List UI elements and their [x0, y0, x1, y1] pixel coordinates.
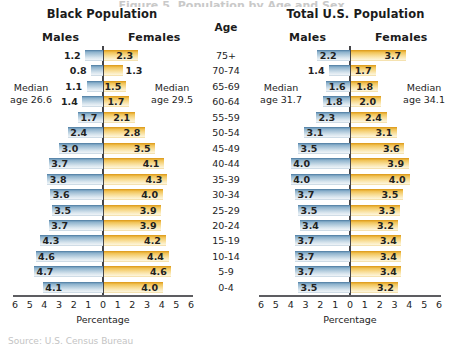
- bar-value-female: 2.3: [116, 49, 133, 62]
- bar-value-male: 3.5: [301, 142, 318, 155]
- age-group-label: 60-64: [204, 94, 248, 109]
- x-axis-tick-label: 4: [284, 299, 298, 311]
- pyramid-row: 2.32.4: [248, 110, 453, 125]
- page-bottom-bleed-text: Source: U.S. Census Bureau: [8, 336, 308, 344]
- bar-value-male: 4.0: [293, 157, 310, 170]
- bar-value-male: 4.1: [45, 281, 62, 294]
- bar-value-male: 3.7: [298, 265, 315, 278]
- bar-value-female: 3.4: [380, 250, 397, 263]
- bar-value-male: 1.1: [65, 80, 82, 93]
- bar-value-female: 3.5: [381, 188, 398, 201]
- bar-value-female: 3.2: [377, 281, 394, 294]
- bar-value-male: 1.4: [61, 95, 78, 108]
- x-axis-tick-label: 4: [402, 299, 416, 311]
- bar-value-female: 4.1: [143, 157, 160, 170]
- age-group-label: 35-39: [204, 172, 248, 187]
- x-axis-tick-label: 5: [23, 299, 37, 311]
- bar-value-male: 3.5: [301, 281, 318, 294]
- x-axis-tick-label: 5: [169, 299, 183, 311]
- bar-value-female: 1.7: [355, 64, 372, 77]
- bar-value-female: 1.5: [105, 80, 122, 93]
- x-axis-tick-label: 2: [373, 299, 387, 311]
- age-group-label: 45-49: [204, 141, 248, 156]
- bar-value-male: 1.6: [329, 80, 346, 93]
- bar-value-female: 2.4: [365, 111, 382, 124]
- bar-value-female: 3.1: [375, 126, 392, 139]
- x-axis-tick-label: 3: [299, 299, 313, 311]
- bar-value-female: 3.7: [384, 49, 401, 62]
- bar-value-male: 2.3: [318, 111, 335, 124]
- x-axis-tick-label: 2: [125, 299, 139, 311]
- age-group-label: 70-74: [204, 63, 248, 78]
- x-axis-line: [259, 295, 441, 297]
- bar-value-male: 3.7: [298, 234, 315, 247]
- bar-male: [82, 96, 103, 107]
- bar-value-female: 3.3: [378, 204, 395, 217]
- bar-value-male: 4.0: [293, 173, 310, 186]
- age-group-label: 5-9: [204, 264, 248, 279]
- pyramid-row: 3.73.5: [248, 187, 453, 202]
- chart-panel-black-population: Black Population Males Females Median ag…: [0, 0, 204, 344]
- pyramid-row: 1.72.1: [0, 110, 205, 125]
- pyramid-row: 3.73.4: [248, 233, 453, 248]
- age-group-label: 15-19: [204, 233, 248, 248]
- bar-value-male: 1.8: [326, 95, 343, 108]
- x-axis-tick-label: 2: [313, 299, 327, 311]
- pyramid-row: 3.53.6: [248, 141, 453, 156]
- bar-value-female: 1.7: [107, 95, 124, 108]
- bar-value-female: 4.0: [389, 173, 406, 186]
- bar-value-male: 2.2: [320, 49, 337, 62]
- x-axis-tick-label: 3: [388, 299, 402, 311]
- pyramid-row: 3.13.1: [248, 125, 453, 140]
- bar-value-male: 0.8: [70, 64, 87, 77]
- x-axis-tick-label: 0: [96, 299, 110, 311]
- bar-value-male: 4.7: [37, 265, 54, 278]
- bar-male: [85, 50, 103, 61]
- bar-value-female: 3.4: [380, 234, 397, 247]
- x-axis-tick-label: 1: [328, 299, 342, 311]
- pyramid-plot-total-us-population: 2.23.71.41.71.61.81.82.02.32.43.13.13.53…: [248, 0, 453, 297]
- pyramid-row: 1.82.0: [248, 94, 453, 109]
- age-label-column: Age 75+70-7465-6960-6455-5950-5445-4940-…: [204, 0, 248, 344]
- bar-value-male: 1.2: [64, 49, 81, 62]
- bar-male: [91, 65, 103, 76]
- bar-value-male: 3.4: [302, 219, 319, 232]
- bar-value-female: 4.4: [147, 250, 164, 263]
- pyramid-row: 3.73.4: [248, 264, 453, 279]
- x-axis-tick-label: 3: [52, 299, 66, 311]
- bar-value-male: 3.5: [301, 204, 318, 217]
- x-axis-tick-label: 5: [269, 299, 283, 311]
- chart-panel-total-us-population: Total U.S. Population Males Females Medi…: [248, 0, 463, 344]
- pyramid-row: 2.23.7: [248, 48, 453, 63]
- bar-value-female: 2.1: [113, 111, 130, 124]
- pyramid-row: 3.03.5: [0, 141, 205, 156]
- pyramid-row: 3.53.9: [0, 203, 205, 218]
- bar-male: [329, 65, 350, 76]
- pyramid-row: 3.74.1: [0, 156, 205, 171]
- bar-male: [87, 81, 103, 92]
- pyramid-row: 1.22.3: [0, 48, 205, 63]
- bar-value-female: 4.0: [141, 188, 158, 201]
- bar-value-male: 2.4: [70, 126, 87, 139]
- pyramid-row: 1.61.8: [248, 79, 453, 94]
- bar-value-male: 3.6: [53, 188, 70, 201]
- bar-value-male: 4.6: [38, 250, 55, 263]
- pyramid-row: 4.14.0: [0, 280, 205, 295]
- pyramid-row: 4.03.9: [248, 156, 453, 171]
- pyramid-row: 4.74.6: [0, 264, 205, 279]
- bar-value-male: 1.4: [308, 64, 325, 77]
- bar-value-female: 3.9: [387, 157, 404, 170]
- age-group-label: 10-14: [204, 249, 248, 264]
- x-axis-tick-label: 2: [67, 299, 81, 311]
- x-axis-tick-label: 5: [417, 299, 431, 311]
- bar-value-male: 3.0: [62, 142, 79, 155]
- pyramid-row: 3.84.3: [0, 172, 205, 187]
- bar-value-female: 4.3: [146, 173, 163, 186]
- pyramid-row: 3.53.3: [248, 203, 453, 218]
- bar-value-male: 3.1: [307, 126, 324, 139]
- x-axis-tick-label: 3: [140, 299, 154, 311]
- x-axis-line: [13, 295, 193, 297]
- bar-value-female: 4.0: [141, 281, 158, 294]
- bar-value-female: 3.2: [377, 219, 394, 232]
- bar-value-male: 4.3: [42, 234, 59, 247]
